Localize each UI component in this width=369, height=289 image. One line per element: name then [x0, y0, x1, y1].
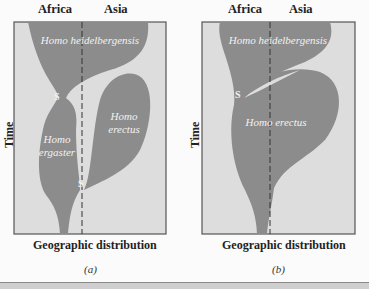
speciation-marker-b1: S — [235, 89, 241, 100]
species-label-erectus-b: Homo erectus — [245, 116, 307, 128]
caption-b: (b) — [272, 263, 285, 275]
species-label-heidelbergensis-b: Homo heidelbergensis — [228, 34, 327, 46]
x-axis-label-b: Geographic distribution — [222, 238, 346, 253]
bottom-divider-band — [0, 282, 369, 289]
